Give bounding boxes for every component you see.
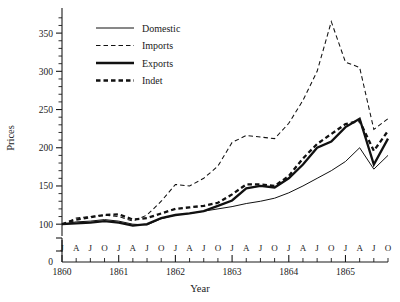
x-month-label-1863-07: J	[259, 243, 263, 253]
x-month-label-1862-01: J	[174, 243, 178, 253]
legend-label-domestic: Domestic	[142, 23, 181, 34]
x-month-label-1865-10: O	[385, 243, 392, 253]
x-month-label-1862-10: O	[215, 243, 222, 253]
x-month-label-1863-01: J	[230, 243, 234, 253]
y-tick-label-350: 350	[39, 29, 54, 39]
x-month-label-1861-04: A	[130, 243, 137, 253]
x-year-label-1863: 1863	[223, 267, 242, 277]
y-tick-label-150: 150	[39, 181, 54, 191]
x-month-label-1863-10: O	[271, 243, 278, 253]
legend-item-imports: Imports	[96, 40, 173, 51]
y-tick-label-zero: 0	[48, 257, 53, 267]
x-month-label-1864-01: J	[287, 243, 291, 253]
series-line-exports	[62, 119, 388, 226]
x-month-label-1864-10: O	[328, 243, 335, 253]
legend-item-exports: Exports	[96, 58, 173, 69]
y-tick-label-300: 300	[39, 67, 54, 77]
legend-label-exports: Exports	[142, 58, 173, 69]
legend-item-indet: Indet	[96, 75, 163, 86]
x-month-label-1865-01: J	[344, 243, 348, 253]
x-month-label-1864-07: J	[315, 243, 319, 253]
x-month-label-1865-07: J	[372, 243, 376, 253]
x-year-label-1860: 1860	[53, 267, 72, 277]
x-year-label-1864: 1864	[279, 267, 298, 277]
x-month-label-1865-04: A	[356, 243, 363, 253]
legend-label-imports: Imports	[142, 40, 173, 51]
x-month-label-1861-01: J	[117, 243, 121, 253]
x-month-label-1862-04: A	[186, 243, 193, 253]
y-tick-label-250: 250	[39, 105, 54, 115]
y-tick-label-100: 100	[39, 220, 54, 230]
x-month-label-1860-10: O	[101, 243, 108, 253]
y-tick-label-200: 200	[39, 143, 54, 153]
x-year-label-1862: 1862	[166, 267, 185, 277]
x-month-label-1860-04: A	[73, 243, 80, 253]
x-axis-title: Year	[190, 283, 210, 294]
x-month-label-1861-10: O	[158, 243, 165, 253]
x-year-label-1865: 1865	[336, 267, 355, 277]
x-month-label-1861-07: J	[145, 243, 149, 253]
x-month-label-1863-04: A	[243, 243, 250, 253]
line-chart-canvas: 3503002502001501000JAJOJAJOJAJOJAJOJAJOJ…	[0, 0, 400, 302]
x-year-label-1861: 1861	[109, 267, 128, 277]
y-axis-title: Prices	[5, 125, 16, 151]
series-line-indet	[62, 121, 388, 224]
x-month-label-1860-07: J	[89, 243, 93, 253]
series-line-domestic	[62, 148, 388, 225]
x-month-label-1864-04: A	[300, 243, 307, 253]
legend-item-domestic: Domestic	[96, 23, 181, 34]
chart-figure: 3503002502001501000JAJOJAJOJAJOJAJOJAJOJ…	[0, 0, 400, 302]
legend-label-indet: Indet	[142, 75, 163, 86]
x-month-label-1862-07: J	[202, 243, 206, 253]
series-line-imports	[62, 22, 388, 225]
